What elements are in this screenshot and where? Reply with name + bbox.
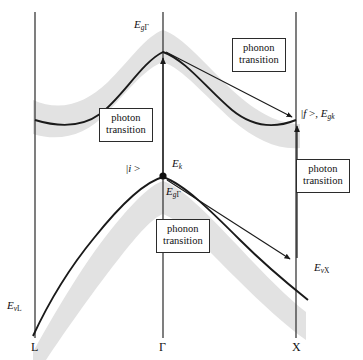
label-ket-i: |i > [126, 163, 140, 175]
axis-tick-label-L: L [31, 340, 38, 355]
label-eg-gamma-top: EgΓ [134, 19, 149, 32]
label-ek: Ek [172, 158, 182, 171]
callout-line2: transition [239, 54, 279, 66]
label-ev-x: EvX [314, 262, 330, 275]
callout-photon-right: photon transition [296, 159, 350, 193]
callout-line1: phonon [163, 223, 203, 235]
valence-band-shading [33, 181, 306, 360]
label-eg-gamma-lower: EgΓ [166, 186, 181, 199]
band-diagram-figure: EgΓ |i > Ek EgΓ |f >, Egk EvL EvX phonon… [0, 0, 363, 360]
axis-tick-label-gamma: Γ [159, 340, 166, 355]
callout-line2: transition [163, 235, 203, 247]
callout-line1: phonon [239, 42, 279, 54]
initial-state-dot [159, 172, 166, 179]
axis-tick-label-X: X [292, 340, 301, 355]
label-ev-l: EvL [7, 300, 22, 313]
callout-line2: transition [106, 124, 146, 136]
callout-line2: transition [303, 175, 343, 187]
callout-photon-left: photon transition [99, 108, 153, 142]
callout-line1: photon [106, 112, 146, 124]
callout-line1: photon [303, 163, 343, 175]
callout-phonon-top-right: phonon transition [232, 38, 286, 72]
callout-phonon-bottom-center: phonon transition [156, 219, 210, 253]
label-ket-f-egk: |f >, Egk [301, 108, 335, 121]
